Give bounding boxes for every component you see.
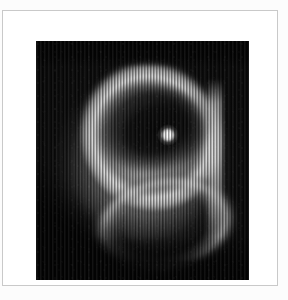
figure-page: Grayscale astronomical image of a planet… (0, 0, 288, 300)
nebula-image: Grayscale astronomical image of a planet… (36, 41, 249, 280)
figure-card: Grayscale astronomical image of a planet… (2, 10, 278, 286)
image-grain (36, 41, 249, 280)
